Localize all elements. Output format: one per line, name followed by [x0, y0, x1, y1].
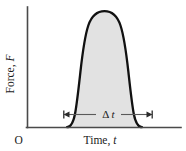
origin-label: O: [15, 134, 23, 146]
y-axis-label: Force, F: [4, 54, 17, 94]
x-axis-label: Time, t: [84, 134, 118, 147]
force-time-impulse-figure: Δ t O Time, t Force, F: [0, 0, 186, 151]
y-axis-label-text: Force,: [4, 64, 17, 93]
x-axis-label-symbol: t: [113, 134, 117, 146]
y-axis-label-symbol: F: [4, 54, 16, 63]
figure-canvas: Δ t O Time, t Force, F: [0, 0, 186, 151]
x-axis-label-text: Time,: [84, 134, 111, 147]
delta-t-label: Δ t: [102, 108, 115, 120]
